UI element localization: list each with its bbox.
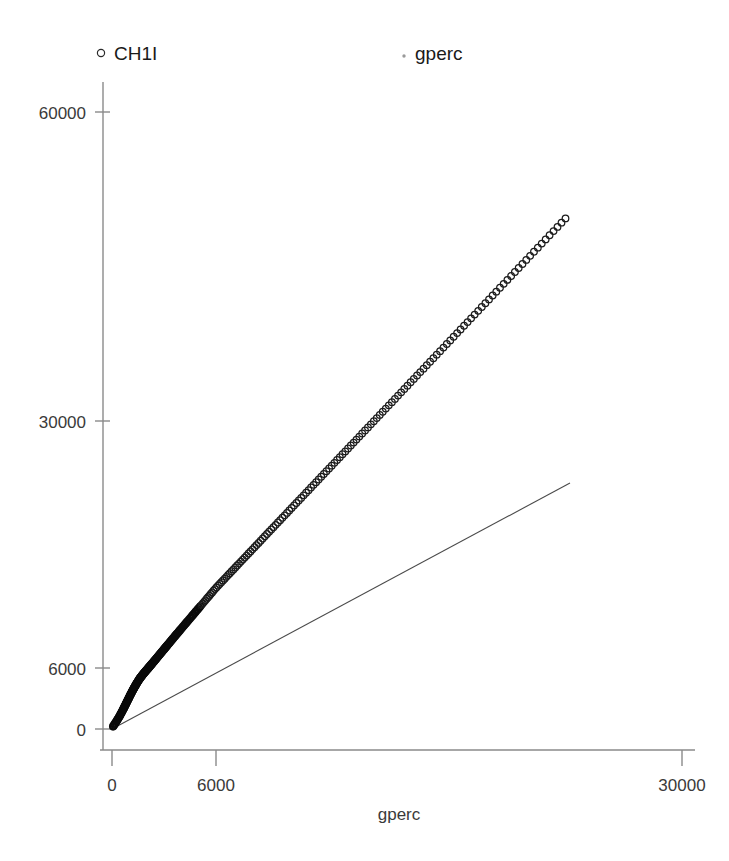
data-point [508,273,515,280]
data-point [550,228,557,235]
data-point [531,248,538,255]
data-point [523,257,530,264]
y-tick-label-30000: 30000 [39,413,86,432]
y-tick-label-6000: 6000 [48,660,86,679]
x-tick-label-30000: 30000 [658,776,705,795]
data-point [558,219,565,226]
y-axis: 60000 30000 6000 0 [39,82,110,750]
data-point [538,240,545,247]
data-point [535,244,542,251]
data-point [504,277,511,284]
data-point [562,215,569,222]
data-point [493,288,500,295]
data-point [542,236,549,243]
legend-label-gperc: gperc [415,43,463,64]
x-tick-label-6000: 6000 [197,776,235,795]
x-tick-label-0: 0 [107,776,116,795]
data-point [497,284,504,291]
y-tick-label-0: 0 [77,721,86,740]
open-circle-icon [97,49,104,56]
data-point [519,261,526,268]
data-point [500,281,507,288]
chart-canvas: CH1I gperc 60000 30000 6000 0 0 6000 [0,0,729,861]
data-point [515,265,522,272]
legend-entry-gperc: gperc [402,43,462,64]
qq-plot-figure: CH1I gperc 60000 30000 6000 0 0 6000 [0,0,729,861]
legend: CH1I gperc [97,43,462,64]
data-point [546,232,553,239]
x-axis-title: gperc [378,805,421,824]
legend-entry-ch1i: CH1I [97,43,157,64]
scatter-points-layer [110,215,569,730]
y-tick-label-60000: 60000 [39,104,86,123]
legend-label-ch1i: CH1I [114,43,157,64]
data-point [527,253,534,260]
data-point [554,224,561,231]
reference-line [112,483,570,729]
dot-icon [402,54,405,57]
data-point [512,269,519,276]
x-axis: 0 6000 30000 gperc [100,750,706,824]
data-point [489,292,496,299]
